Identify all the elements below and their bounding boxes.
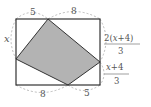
label-bottom-right: 5	[84, 88, 90, 98]
label-right-lower-numerator: x+4	[106, 62, 123, 72]
label-bottom-left: 8	[40, 89, 46, 99]
label-right-upper-numerator: 2(x+4)	[104, 33, 133, 43]
label-top-left: 5	[30, 7, 36, 17]
shaded-quadrilateral	[16, 19, 100, 85]
label-left: x	[4, 33, 10, 44]
label-right-lower-denominator: 3	[114, 76, 119, 86]
geometry-diagram: 5 8 x 2(x+4) 3 x+4 3 8 5	[0, 0, 151, 107]
label-right-upper-denominator: 3	[118, 46, 123, 56]
label-top-right: 8	[71, 6, 77, 16]
